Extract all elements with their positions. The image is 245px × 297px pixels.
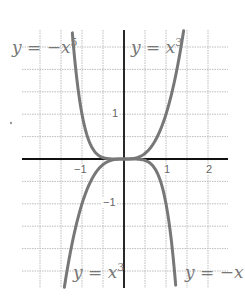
label-text: y = x — [131, 37, 175, 57]
label-exponent: 5 — [71, 36, 78, 49]
stray-dot — [10, 122, 12, 124]
label-top-right: y = x3 — [131, 39, 182, 56]
label-bottom-left: y = x3 — [73, 264, 124, 281]
x-tick-2: 2 — [205, 164, 213, 175]
label-top-left: y = −x5 — [12, 39, 78, 56]
label-text: y = x — [73, 262, 117, 282]
x-tick-1: 1 — [163, 164, 171, 175]
label-bottom-right: y = −x5 — [185, 264, 244, 281]
label-exponent: 3 — [117, 261, 124, 274]
label-text: y = −x — [12, 37, 71, 57]
label-exponent: 5 — [244, 261, 245, 274]
label-text: y = −x — [185, 262, 244, 282]
y-tick-1: 1 — [111, 108, 119, 119]
label-exponent: 3 — [175, 36, 182, 49]
y-tick-neg1: −1 — [102, 197, 117, 208]
x-tick-neg1: −1 — [73, 164, 88, 175]
